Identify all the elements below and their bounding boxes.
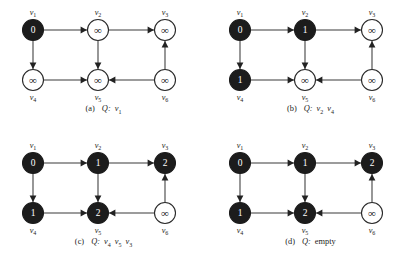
edge-v2-to-v3-arrowhead-icon <box>148 160 154 167</box>
node-value-v3: ∞ <box>368 24 376 36</box>
node-value-v4: 1 <box>238 75 243 85</box>
node-v6-panel-d: ∞v6 <box>362 203 383 237</box>
edge-v6-to-v5-arrowhead-icon <box>109 77 115 84</box>
edge-v4-to-v5-arrowhead-icon <box>288 77 294 84</box>
caption-panel-a: (a)Q:v1 <box>0 104 207 115</box>
node-label-v2: v2 <box>95 141 102 151</box>
edge-v2-to-v5-arrowhead-icon <box>302 63 309 69</box>
edge-v4-to-v5-arrowhead-icon <box>81 210 87 217</box>
node-value-v5: ∞ <box>301 74 309 86</box>
node-label-v1: v1 <box>237 141 244 151</box>
caption-queue-item-0: v4 <box>100 237 111 246</box>
edge-v4-to-v5-arrowhead-icon <box>81 77 87 84</box>
node-v1-panel-b: 0v1 <box>230 8 251 41</box>
edge-v1-to-v2-arrowhead-icon <box>81 160 87 167</box>
node-value-v4: 1 <box>31 208 36 218</box>
node-v2-panel-d: 1v2 <box>295 141 316 174</box>
node-label-v1: v1 <box>237 8 244 18</box>
node-value-v2: 1 <box>303 25 308 35</box>
node-value-v5: 2 <box>303 208 308 218</box>
node-v4-panel-c: 1v4 <box>23 203 44 237</box>
node-v2-panel-b: 1v2 <box>295 8 316 41</box>
node-v4-panel-a: ∞v4 <box>23 70 44 104</box>
edge-v2-to-v3-arrowhead-icon <box>355 27 361 34</box>
node-v5-panel-c: 2v5 <box>88 203 109 237</box>
edge-v1-to-v2-arrowhead-icon <box>81 27 87 34</box>
node-v1-panel-c: 0v1 <box>23 141 44 174</box>
node-value-v6: ∞ <box>161 207 169 219</box>
node-value-v2: 1 <box>96 158 101 168</box>
node-value-v2: 1 <box>303 158 308 168</box>
node-v6-panel-c: ∞v6 <box>155 203 176 237</box>
caption-tag: (a) <box>86 104 95 113</box>
edge-v2-to-v5-arrowhead-icon <box>302 196 309 202</box>
node-label-v6: v6 <box>369 93 376 103</box>
node-value-v1: 0 <box>31 25 36 35</box>
node-label-v2: v2 <box>302 8 309 18</box>
node-value-v6: ∞ <box>368 207 376 219</box>
node-value-v5: ∞ <box>94 74 102 86</box>
edge-v2-to-v3-arrowhead-icon <box>355 160 361 167</box>
node-value-v3: ∞ <box>161 24 169 36</box>
node-value-v2: ∞ <box>94 24 102 36</box>
edge-v6-to-v3-arrowhead-icon <box>162 41 169 47</box>
edge-v1-to-v4-arrowhead-icon <box>237 63 244 69</box>
graph-panel-d: 0v11v22v31v42v5∞v6 <box>207 133 414 266</box>
node-value-v4: ∞ <box>29 74 37 86</box>
caption-queue-item-0: v1 <box>111 104 122 113</box>
node-v3-panel-d: 2v3 <box>362 141 383 174</box>
caption-queue-item-2: v3 <box>121 237 132 246</box>
node-label-v4: v4 <box>237 93 244 103</box>
node-v2-panel-c: 1v2 <box>88 141 109 174</box>
node-v3-panel-c: 2v3 <box>155 141 176 174</box>
node-value-v6: ∞ <box>161 74 169 86</box>
node-label-v6: v6 <box>369 226 376 236</box>
edge-v6-to-v5-arrowhead-icon <box>109 210 115 217</box>
node-label-v3: v3 <box>162 141 169 151</box>
edge-v1-to-v2-arrowhead-icon <box>288 160 294 167</box>
node-v1-panel-a: 0v1 <box>23 8 44 41</box>
node-v3-panel-b: ∞v3 <box>362 8 383 41</box>
node-value-v4: 1 <box>238 208 243 218</box>
node-label-v5: v5 <box>302 93 309 103</box>
node-label-v6: v6 <box>162 93 169 103</box>
node-value-v1: 0 <box>238 25 243 35</box>
node-label-v4: v4 <box>237 226 244 236</box>
node-label-v5: v5 <box>95 93 102 103</box>
node-label-v4: v4 <box>30 93 37 103</box>
caption-queue-letter: Q: <box>95 104 111 113</box>
figure-canvas: 0v1∞v2∞v3∞v4∞v5∞v6(a)Q:v10v11v2∞v31v4∞v5… <box>0 0 415 266</box>
edge-v1-to-v4-arrowhead-icon <box>237 196 244 202</box>
node-label-v4: v4 <box>30 226 37 236</box>
caption-queue-item-1: v5 <box>111 237 122 246</box>
caption-panel-c: (c)Q:v4v5v3 <box>0 237 207 248</box>
edge-v1-to-v4-arrowhead-icon <box>30 63 37 69</box>
caption-queue-item-1: v4 <box>323 104 334 113</box>
edge-v6-to-v3-arrowhead-icon <box>369 174 376 180</box>
node-label-v1: v1 <box>30 141 37 151</box>
caption-tag: (b) <box>287 104 297 113</box>
node-v4-panel-b: 1v4 <box>230 70 251 104</box>
edge-v2-to-v5-arrowhead-icon <box>95 63 102 69</box>
caption-queue-item-0: v2 <box>313 104 324 113</box>
node-value-v1: 0 <box>31 158 36 168</box>
node-label-v3: v3 <box>162 8 169 18</box>
edge-v2-to-v5-arrowhead-icon <box>95 196 102 202</box>
caption-panel-b: (b)Q:v2v4 <box>207 104 414 115</box>
node-v6-panel-b: ∞v6 <box>362 70 383 104</box>
node-label-v2: v2 <box>95 8 102 18</box>
node-value-v6: ∞ <box>368 74 376 86</box>
node-label-v6: v6 <box>162 226 169 236</box>
node-v5-panel-d: 2v5 <box>295 203 316 237</box>
node-label-v5: v5 <box>95 226 102 236</box>
caption-queue-empty: empty <box>311 237 336 246</box>
node-v3-panel-a: ∞v3 <box>155 8 176 41</box>
node-value-v1: 0 <box>238 158 243 168</box>
node-label-v2: v2 <box>302 141 309 151</box>
node-v4-panel-d: 1v4 <box>230 203 251 237</box>
edge-v2-to-v3-arrowhead-icon <box>148 27 154 34</box>
node-value-v5: 2 <box>96 208 101 218</box>
node-label-v3: v3 <box>369 141 376 151</box>
node-v2-panel-a: ∞v2 <box>88 8 109 41</box>
edge-v1-to-v2-arrowhead-icon <box>288 27 294 34</box>
